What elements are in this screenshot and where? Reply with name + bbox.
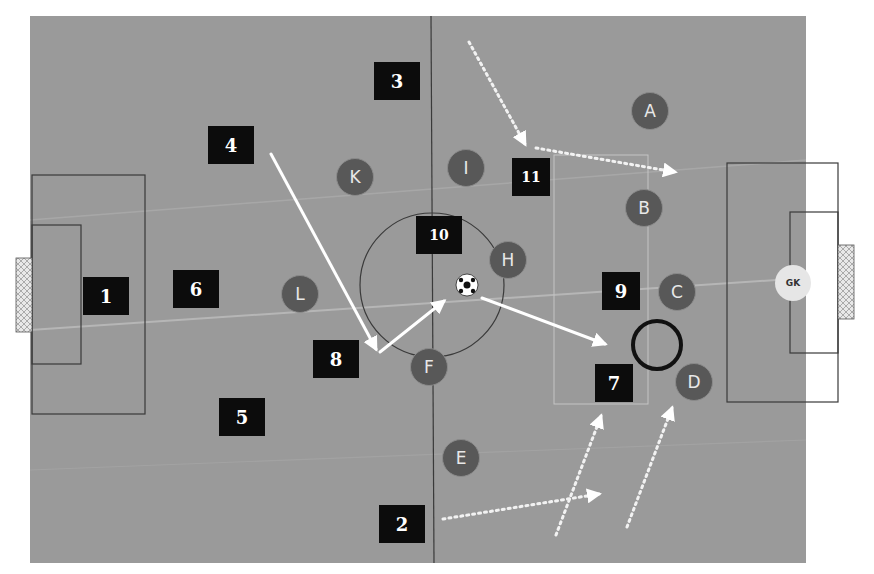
opponent-label: C (671, 282, 683, 302)
opponent-H: H (489, 241, 527, 279)
player-number: 8 (330, 349, 343, 370)
player-number: 5 (236, 407, 249, 428)
team-player-1: 1 (83, 277, 129, 315)
team-player-4: 4 (208, 126, 254, 164)
opponent-B: B (625, 189, 663, 227)
opponent-A: A (631, 92, 669, 130)
team-player-2: 2 (379, 505, 425, 543)
team-player-11: 11 (512, 158, 550, 196)
team-player-8: 8 (313, 340, 359, 378)
player-number: 2 (396, 514, 409, 535)
player-number: 4 (225, 135, 238, 156)
player-number: 6 (190, 279, 203, 300)
left-goal-net (16, 258, 32, 332)
opponent-label: F (424, 357, 434, 377)
team-player-3: 3 (374, 62, 420, 100)
player-number: 11 (521, 169, 540, 185)
team-player-7: 7 (595, 364, 633, 402)
opponent-label: E (456, 448, 467, 468)
ball-icon (456, 274, 478, 296)
right-goal-net (838, 245, 854, 319)
opponent-E: E (442, 439, 480, 477)
opponent-L: L (281, 275, 319, 313)
opponent-label: L (295, 284, 304, 304)
player-number: 1 (100, 286, 113, 307)
opponent-I: I (447, 149, 485, 187)
opponent-D: D (675, 363, 713, 401)
opponent-label: I (463, 158, 468, 178)
team-player-6: 6 (173, 270, 219, 308)
opponent-goalkeeper: GK (775, 265, 811, 301)
player-number: 10 (429, 227, 448, 243)
opponent-F: F (410, 348, 448, 386)
team-player-10: 10 (416, 216, 462, 254)
team-player-5: 5 (219, 398, 265, 436)
opponent-label: H (502, 250, 515, 270)
opponent-C: C (658, 273, 696, 311)
opponent-K: K (336, 158, 374, 196)
opponent-label: D (687, 372, 700, 392)
opponent-label: A (644, 101, 656, 121)
player-number: 3 (391, 71, 404, 92)
opponent-label: B (638, 198, 650, 218)
goalkeeper-label: GK (786, 278, 800, 288)
player-number: 7 (608, 373, 621, 394)
player-number: 9 (615, 281, 628, 302)
pitch-diagram (0, 0, 874, 574)
opponent-label: K (349, 167, 360, 187)
team-player-9: 9 (602, 272, 640, 310)
